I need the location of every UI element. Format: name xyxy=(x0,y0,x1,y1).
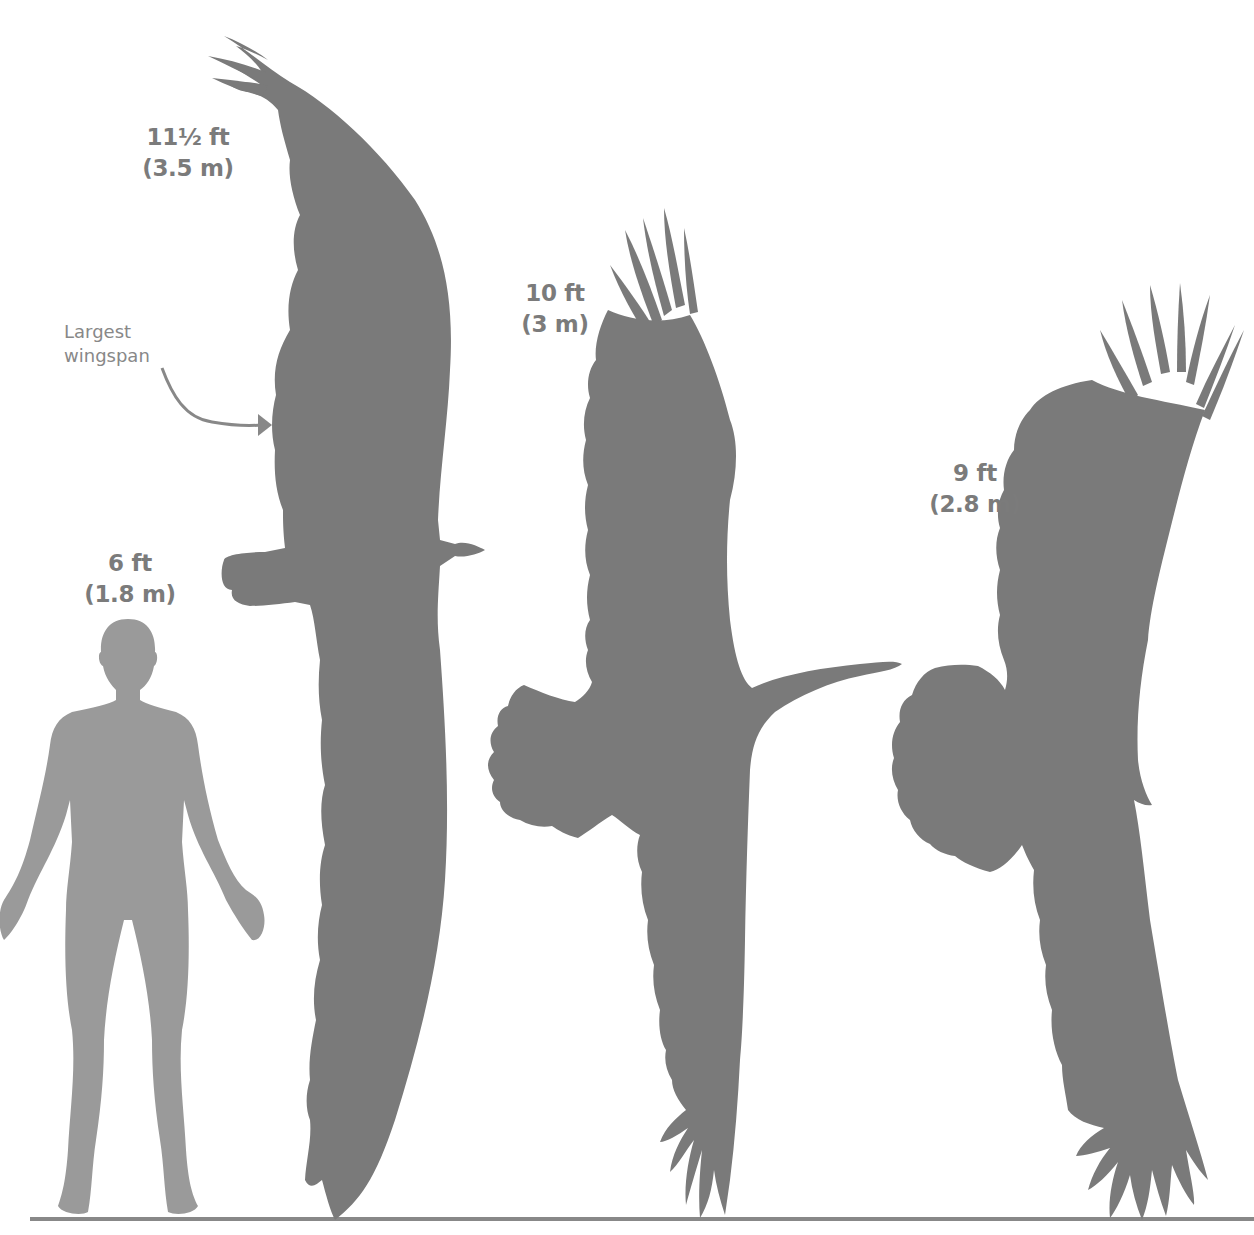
bird-3-size-metric: (2.8 m) xyxy=(915,489,1035,520)
ground-line xyxy=(30,1217,1254,1221)
human-size-metric: (1.8 m) xyxy=(70,579,190,610)
silhouettes-canvas xyxy=(0,0,1254,1235)
bird-1-size-metric: (3.5 m) xyxy=(128,153,248,184)
wingspan-comparison-diagram: 11½ ft (3.5 m) 10 ft (3 m) 9 ft (2.8 m) … xyxy=(0,0,1254,1235)
arrowhead-icon xyxy=(258,414,272,436)
bird-3-silhouette-icon xyxy=(892,283,1244,1220)
annotation-arrow-line xyxy=(162,368,262,426)
bird-2-size-metric: (3 m) xyxy=(500,309,610,340)
bird-2-size-imperial: 10 ft xyxy=(500,278,610,309)
human-size-imperial: 6 ft xyxy=(70,548,190,579)
annotation-line-2: wingspan xyxy=(64,344,150,368)
human-size-label: 6 ft (1.8 m) xyxy=(70,548,190,610)
bird-1-silhouette-icon xyxy=(208,36,485,1220)
bird-3-size-imperial: 9 ft xyxy=(915,458,1035,489)
bird-3-size-label: 9 ft (2.8 m) xyxy=(915,458,1035,520)
bird-2-silhouette-icon xyxy=(488,208,902,1218)
annotation-line-1: Largest xyxy=(64,320,150,344)
largest-wingspan-annotation: Largest wingspan xyxy=(64,320,150,368)
human-silhouette-icon xyxy=(0,619,265,1214)
bird-1-size-imperial: 11½ ft xyxy=(128,122,248,153)
bird-2-size-label: 10 ft (3 m) xyxy=(500,278,610,340)
bird-1-size-label: 11½ ft (3.5 m) xyxy=(128,122,248,184)
